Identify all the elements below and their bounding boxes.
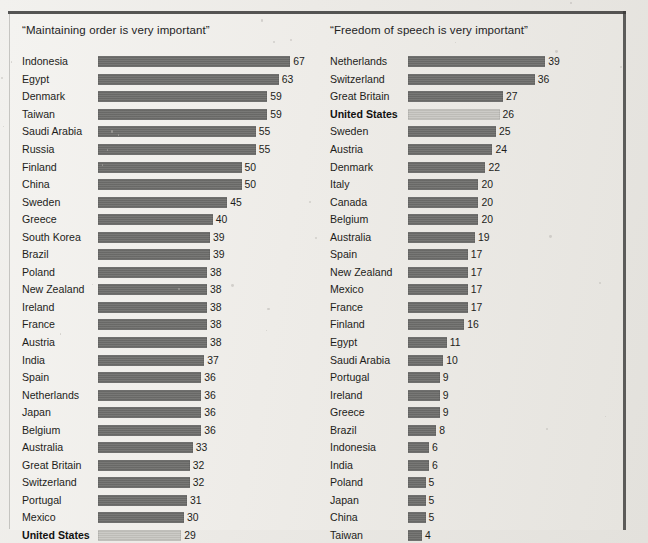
bar-row: Denmark59 [22,88,322,106]
bar-category-label: Belgium [22,425,98,436]
bar-row: Spain36 [22,369,322,387]
bar-category-label: Taiwan [330,530,408,541]
bar-track: 33 [98,442,322,453]
bar-row: Switzerland32 [22,474,322,492]
bar-row: Great Britain32 [22,457,322,475]
bar-row: Denmark22 [330,158,620,176]
bar-row: Canada20 [330,193,620,211]
bar-value-label: 17 [471,249,483,260]
bar [98,512,184,523]
bar [98,267,207,278]
bar [408,302,468,313]
bar [98,407,201,418]
bar-row: Poland5 [330,474,620,492]
bar-row: Switzerland36 [330,71,620,89]
bar-category-label: Portugal [330,372,408,383]
bar-category-label: Taiwan [22,109,98,120]
bar-track: 9 [408,407,620,418]
bar-highlighted [98,530,181,541]
bar [408,197,478,208]
bar [408,495,426,506]
bar-track: 5 [408,495,620,506]
bar-row: Portugal9 [330,369,620,387]
bar-value-label: 38 [210,267,222,278]
bar-track: 8 [408,425,620,436]
scan-artifact [1,77,3,79]
bar-track: 36 [98,425,322,436]
bar-category-label: India [22,355,98,366]
bar-track: 17 [408,249,620,260]
bar-row: Netherlands39 [330,53,620,71]
bar-row: Australia19 [330,228,620,246]
bar [98,197,227,208]
bar-value-label: 63 [282,74,294,85]
bar-row: Taiwan4 [330,527,620,543]
bar-category-label: Finland [22,162,98,173]
bar-category-label: Great Britain [330,91,408,102]
bar-value-label: 32 [193,460,205,471]
bar-row: Russia55 [22,141,322,159]
bar [98,495,187,506]
bar-value-label: 9 [443,372,449,383]
scan-artifact [3,126,4,127]
bar [408,372,440,383]
panel-title-speech: “Freedom of speech is very important” [330,24,620,40]
bar [408,355,443,366]
bar-value-label: 59 [270,91,282,102]
bar-row: Australia33 [22,439,322,457]
bar-row: Austria24 [330,141,620,159]
bar-track: 20 [408,179,620,190]
bar-value-label: 22 [488,162,500,173]
bar-category-label: Switzerland [330,74,408,85]
bar-category-label: China [330,512,408,523]
bar-value-label: 40 [216,214,228,225]
bar-category-label: Poland [22,267,98,278]
bar-value-label: 33 [196,442,208,453]
bar-category-label: New Zealand [330,267,408,278]
bar [98,372,201,383]
bar [98,425,201,436]
bar-category-label: South Korea [22,232,98,243]
bar-category-label: Sweden [330,126,408,137]
bar-category-label: India [330,460,408,471]
bar-rows-speech: Netherlands39Switzerland36Great Britain2… [330,53,620,543]
bar [408,56,545,67]
bar-row: Egypt11 [330,334,620,352]
bar-value-label: 11 [450,337,461,348]
bar-track: 30 [98,512,322,523]
bar-value-label: 39 [213,232,225,243]
bar-row: Belgium20 [330,211,620,229]
bar-value-label: 59 [270,109,282,120]
bar-value-label: 38 [210,284,222,295]
bar-value-label: 10 [446,355,458,366]
bar-value-label: 38 [210,319,222,330]
bar-category-label: Japan [22,407,98,418]
bar-track: 40 [98,214,322,225]
bar [408,530,422,541]
bar-row: Spain17 [330,246,620,264]
bar-category-label: Belgium [330,214,408,225]
bar-track: 29 [98,530,322,541]
bar [98,179,242,190]
bar-track: 63 [98,74,322,85]
bar-category-label: Egypt [330,337,408,348]
bar-category-label: China [22,179,98,190]
bar-track: 20 [408,197,620,208]
bar [408,144,492,155]
bar-category-label: Indonesia [330,442,408,453]
bar [408,214,478,225]
bar-track: 50 [98,162,322,173]
bar [98,355,204,366]
bar-track: 38 [98,319,322,330]
bar-value-label: 39 [213,249,225,260]
bar-track: 31 [98,495,322,506]
bar-category-label: Switzerland [22,477,98,488]
bar-row: Ireland9 [330,386,620,404]
bar [98,56,290,67]
bar-row: Saudi Arabia55 [22,123,322,141]
bar-track: 39 [408,56,620,67]
bar-value-label: 8 [439,425,445,436]
bar [98,477,190,488]
bar-row: China50 [22,176,322,194]
bar-value-label: 55 [259,144,271,155]
